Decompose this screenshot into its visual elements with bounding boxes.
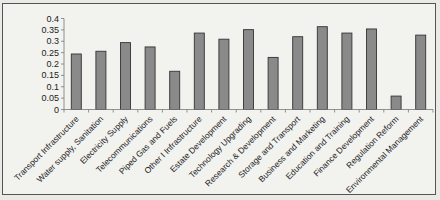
y-tick-label: 0.2	[46, 59, 59, 69]
y-tick-label: 0.15	[41, 70, 59, 80]
y-tick-label: 0.25	[41, 48, 59, 58]
y-tick-label: 0.4	[46, 14, 59, 24]
bar-chart: 00.050.10.150.20.250.30.350.4 Transport …	[0, 0, 440, 200]
bar	[194, 33, 204, 109]
x-axis: Transport InfrastructureWater supply, Sa…	[12, 110, 433, 195]
y-tick-label: 0	[54, 105, 59, 115]
bar	[96, 51, 106, 109]
bar	[342, 33, 352, 109]
bar	[391, 96, 401, 109]
bar	[170, 71, 180, 109]
bar	[268, 57, 278, 109]
bar	[219, 39, 229, 109]
bar	[71, 54, 81, 110]
bar	[416, 35, 426, 109]
bar	[244, 30, 254, 110]
bar	[121, 43, 131, 110]
y-tick-label: 0.1	[46, 82, 59, 92]
bar	[317, 27, 327, 110]
y-tick-label: 0.35	[41, 25, 59, 35]
y-tick-label: 0.05	[41, 93, 59, 103]
y-axis: 00.050.10.150.20.250.30.350.4	[41, 14, 64, 115]
bars	[71, 27, 425, 110]
bar	[145, 47, 155, 110]
y-tick-label: 0.3	[46, 36, 59, 46]
bar	[367, 29, 377, 110]
bar	[293, 37, 303, 110]
